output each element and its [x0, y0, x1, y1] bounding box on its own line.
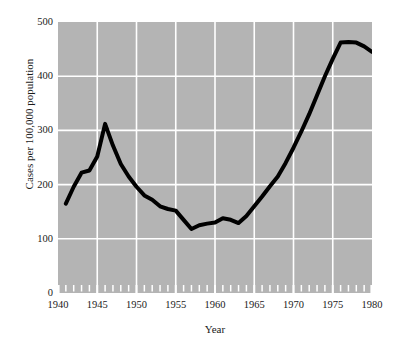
y-axis-tick-label: 100: [5, 234, 53, 245]
x-axis-tick-label: 1975: [311, 300, 355, 311]
x-axis-tick-label: 1945: [75, 300, 119, 311]
x-axis-tick-label: 1940: [36, 300, 80, 311]
x-axis-tick-marks: [58, 285, 372, 295]
x-axis-tick-label: 1970: [272, 300, 316, 311]
x-axis-tick-label: 1950: [115, 300, 159, 311]
x-axis-tick-label: 1965: [232, 300, 276, 311]
y-axis-tick-label: 0: [5, 288, 53, 299]
chart-figure: 0100200300400500 19401945195019551960196…: [0, 0, 396, 346]
x-axis-tick-label: 1980: [350, 300, 394, 311]
y-axis-tick-label: 500: [5, 17, 53, 28]
x-axis-title: Year: [58, 323, 372, 335]
data-series-line: [58, 22, 372, 293]
y-axis-title: Cases per 100,000 population: [23, 38, 35, 210]
plot-area: [58, 22, 372, 293]
x-axis-tick-label: 1960: [193, 300, 237, 311]
x-axis-tick-label: 1955: [154, 300, 198, 311]
